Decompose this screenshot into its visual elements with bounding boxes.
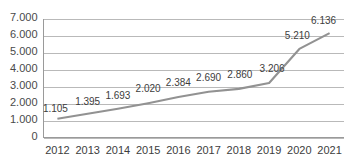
data-point-label: 2.690: [196, 72, 221, 83]
chart-canvas: 01.0002.0003.0004.0005.0006.0007.000 1.1…: [0, 0, 344, 165]
data-point-label: 5.210: [285, 30, 310, 41]
data-point-label: 2.860: [227, 69, 252, 80]
x-axis-tick-labels: 2012201320142015201620172018201920202021: [45, 144, 342, 156]
data-point-label: 1.395: [75, 96, 100, 107]
y-axis-tick-label: 4.000: [10, 62, 38, 74]
x-axis-tick-label: 2014: [106, 144, 130, 156]
x-axis-tick-label: 2018: [227, 144, 251, 156]
y-axis-tick-label: 7.000: [10, 11, 38, 23]
y-axis-tick-label: 5.000: [10, 45, 38, 57]
y-axis-tick-label: 0: [31, 130, 37, 142]
x-axis-tick-label: 2016: [166, 144, 190, 156]
data-point-labels-group: 1.1051.3951.6932.0202.3842.6902.8603.206…: [43, 15, 337, 114]
x-axis-tick-label: 2013: [75, 144, 99, 156]
y-axis-tick-label: 6.000: [10, 28, 38, 40]
x-axis-tick-label: 2019: [257, 144, 281, 156]
data-point-label: 2.384: [166, 77, 191, 88]
x-axis-tick-label: 2015: [136, 144, 160, 156]
y-axis-tick-label: 3.000: [10, 79, 38, 91]
data-point-label: 1.693: [105, 90, 130, 101]
x-axis-tick-label: 2017: [196, 144, 220, 156]
data-point-label: 6.136: [311, 15, 336, 26]
data-point-label: 1.105: [43, 103, 68, 114]
y-axis-tick-label: 2.000: [10, 96, 38, 108]
data-point-label: 2.020: [136, 83, 161, 94]
line-chart: 01.0002.0003.0004.0005.0006.0007.000 1.1…: [0, 0, 344, 165]
x-axis-tick-label: 2021: [317, 144, 341, 156]
y-axis-tick-labels: 01.0002.0003.0004.0005.0006.0007.000: [10, 11, 38, 142]
x-axis-tick-label: 2012: [45, 144, 69, 156]
data-point-label: 3.206: [260, 63, 285, 74]
x-axis-tick-label: 2020: [287, 144, 311, 156]
y-axis-tick-label: 1.000: [10, 113, 38, 125]
